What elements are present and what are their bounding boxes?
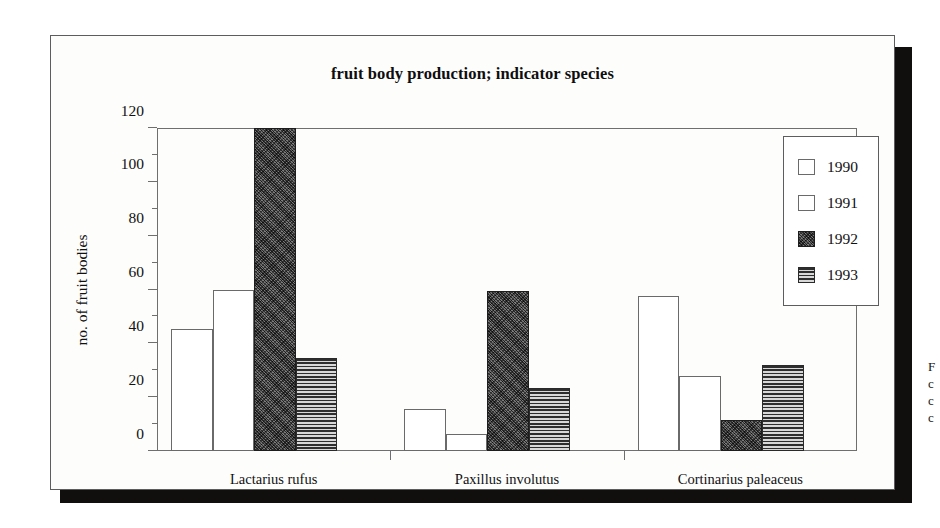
x-axis-group-separator — [390, 451, 391, 460]
y-axis-minor-tick — [152, 369, 157, 370]
y-axis-tick — [148, 235, 157, 236]
x-axis-category-label: Paxillus involutus — [455, 471, 559, 488]
y-axis-tick-label: 40 — [129, 317, 145, 335]
plot-border-left — [157, 128, 158, 451]
legend-swatch — [798, 267, 815, 283]
bar — [679, 376, 721, 451]
y-axis-tick-label: 60 — [129, 263, 145, 281]
legend-row: 1991 — [798, 185, 878, 221]
y-axis-title-label: no. of fruit bodies — [73, 234, 91, 345]
bar — [254, 128, 296, 451]
y-axis-tick — [148, 450, 157, 451]
x-axis-category-label: Cortinarius paleaceus — [678, 471, 803, 488]
legend-label: 1991 — [827, 194, 858, 212]
bar — [487, 291, 529, 451]
plot-area: 020406080100120 Lactarius rufusPaxillus … — [157, 128, 857, 451]
y-axis-minor-tick — [152, 423, 157, 424]
y-axis-tick-label: 100 — [121, 155, 144, 173]
legend-swatch — [798, 159, 815, 175]
y-axis-tick — [148, 181, 157, 182]
page-margin-text-line: c — [928, 375, 940, 392]
y-axis-tick-label: 120 — [121, 102, 144, 120]
bar — [721, 420, 763, 451]
y-axis-tick-label: 0 — [136, 425, 144, 443]
bar — [213, 290, 255, 452]
bar — [171, 329, 213, 451]
y-axis-minor-tick — [152, 154, 157, 155]
bar — [638, 296, 680, 451]
bar — [529, 388, 571, 451]
legend-swatch — [798, 195, 815, 211]
chart-title: fruit body production; indicator species — [51, 64, 894, 84]
bar — [762, 365, 804, 451]
y-axis-title: no. of fruit bodies — [71, 128, 93, 451]
y-axis-tick — [148, 342, 157, 343]
page-margin-text-line: F — [928, 358, 940, 375]
page-margin-text-line: c — [928, 392, 940, 409]
y-axis-tick-label: 80 — [129, 209, 145, 227]
page-margin-text-line: c — [928, 409, 940, 426]
y-axis-tick — [148, 127, 157, 128]
page-margin-text: Fccc — [928, 358, 940, 426]
legend-row: 1992 — [798, 221, 878, 257]
y-axis-tick — [148, 396, 157, 397]
legend-row: 1993 — [798, 257, 878, 293]
legend-label: 1993 — [827, 266, 858, 284]
legend-row: 1990 — [798, 149, 878, 185]
bar — [446, 434, 488, 451]
legend-label: 1992 — [827, 230, 858, 248]
y-axis-minor-tick — [152, 262, 157, 263]
y-axis-minor-tick — [152, 208, 157, 209]
figure-panel: fruit body production; indicator species… — [50, 35, 895, 490]
bar — [296, 358, 338, 451]
bar — [404, 409, 446, 451]
legend: 1990199119921993 — [783, 136, 879, 306]
legend-label: 1990 — [827, 158, 858, 176]
x-axis-group-separator — [624, 451, 625, 460]
y-axis-tick — [148, 289, 157, 290]
x-axis-category-label: Lactarius rufus — [230, 471, 317, 488]
legend-swatch — [798, 231, 815, 247]
y-axis-tick-label: 20 — [129, 371, 145, 389]
y-axis-minor-tick — [152, 315, 157, 316]
